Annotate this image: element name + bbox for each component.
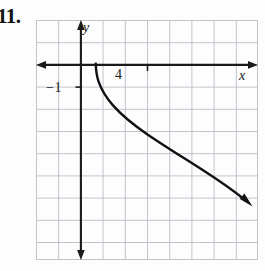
x-tick-label-4: 4 <box>115 68 122 82</box>
grid-lines <box>36 20 258 260</box>
y-axis <box>77 20 85 260</box>
tick-marks <box>76 65 148 87</box>
graph-canvas <box>36 20 258 260</box>
x-axis-label: x <box>239 69 245 83</box>
coordinate-grid-graph: y x 4 −1 <box>36 20 258 260</box>
problem-number: 11. <box>0 6 21 27</box>
y-tick-label-negative-1: −1 <box>46 81 62 95</box>
y-axis-label: y <box>83 21 89 35</box>
plotted-curve <box>96 64 253 207</box>
